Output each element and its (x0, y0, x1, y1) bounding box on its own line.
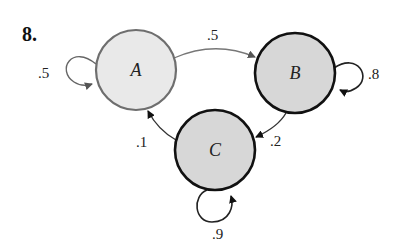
node-a: A (96, 30, 176, 110)
edge-label-c-c: .9 (212, 226, 223, 239)
edge-label-b-c: .2 (270, 133, 281, 149)
edge-label-b-b: .8 (368, 66, 379, 82)
node-a-label: A (130, 60, 143, 80)
node-b-label: B (290, 63, 301, 83)
node-b: B (255, 33, 335, 113)
node-c-label: C (209, 140, 222, 160)
edge-label-a-a: .5 (38, 65, 49, 81)
edge-label-a-b: .5 (207, 27, 218, 43)
edge-a-b (174, 49, 255, 58)
markov-chain-diagram: 8. .5 .5 .8 .2 .1 .9 A B C (0, 0, 400, 239)
node-c: C (175, 110, 255, 190)
edge-c-c-loop (197, 190, 232, 222)
edge-a-a-loop (66, 57, 96, 86)
edge-c-a (148, 111, 176, 140)
edge-b-b-loop (334, 63, 363, 91)
edge-label-c-a: .1 (136, 134, 147, 150)
problem-number: 8. (22, 23, 37, 45)
